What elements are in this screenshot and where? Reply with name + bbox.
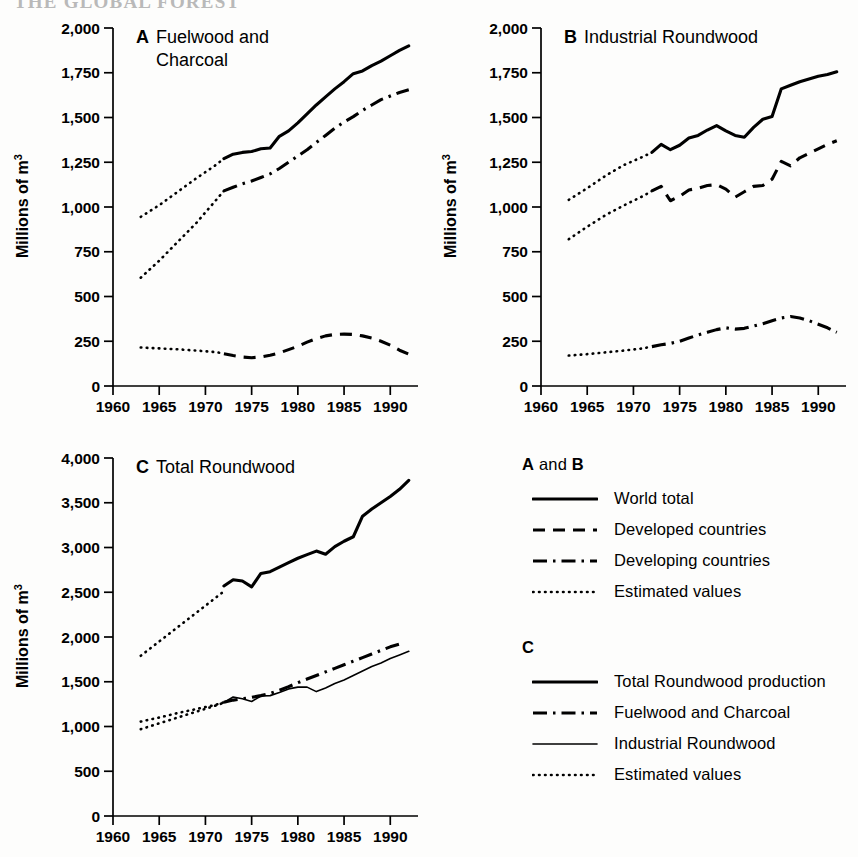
series-line: [224, 334, 409, 358]
y-tick-label: 0: [91, 808, 100, 825]
legend-group-ab-title: A and B: [522, 455, 852, 474]
x-tick-label: 1980: [281, 398, 315, 415]
x-tick-label: 1960: [96, 828, 130, 845]
legend-ab-item[interactable]: World total: [522, 483, 852, 514]
x-tick-label: 1990: [373, 828, 407, 845]
legend: A and B World totalDeveloped countriesDe…: [522, 455, 852, 790]
x-tick-label: 1980: [709, 398, 743, 415]
x-tick-label: 1965: [142, 398, 177, 415]
x-tick-label: 1990: [801, 398, 835, 415]
x-tick-label: 1960: [524, 398, 558, 415]
series-line: [652, 141, 837, 201]
x-tick-label: 1970: [188, 828, 222, 845]
y-tick-label: 2,500: [61, 584, 100, 601]
panel-a-y-axis-title: Millions of m3: [12, 154, 31, 258]
panel-a-x-ticks: 1960196519701975198019851990: [96, 386, 408, 415]
legend-label: Total Roundwood production: [614, 672, 826, 691]
y-tick-label: 3,000: [61, 539, 100, 556]
legend-c-rows: Total Roundwood productionFuelwood and C…: [522, 666, 852, 790]
legend-label: Industrial Roundwood: [614, 734, 776, 753]
panel-c-x-ticks: 1960196519701975198019851990: [96, 816, 408, 845]
x-tick-label: 1985: [327, 398, 362, 415]
legend-ab-b: B: [572, 455, 584, 473]
series-line: [224, 644, 400, 702]
legend-ab-a: A: [522, 455, 534, 473]
legend-ab-item[interactable]: Estimated values: [522, 576, 852, 607]
y-tick-label: 3,500: [61, 494, 100, 511]
legend-swatch: [532, 675, 598, 689]
legend-swatch: [532, 585, 598, 599]
y-tick-label: 250: [502, 333, 528, 350]
panel-c-y-axis-label: Millions of m3: [12, 584, 31, 688]
y-tick-label: 0: [519, 378, 528, 395]
y-tick-label: 2,000: [61, 629, 100, 646]
panel-c-letter: C: [136, 457, 149, 477]
panel-b-letter: B: [564, 27, 577, 47]
x-tick-label: 1970: [616, 398, 650, 415]
series-line: [141, 159, 224, 217]
x-tick-label: 1965: [142, 828, 177, 845]
legend-c-item[interactable]: Industrial Roundwood: [522, 728, 852, 759]
legend-spacer: [522, 607, 852, 638]
y-tick-label: 1,250: [489, 154, 528, 171]
panel-a-svg: Millions of m3 02505007501,0001,2501,500…: [0, 8, 430, 418]
x-tick-label: 1985: [755, 398, 790, 415]
legend-c-item[interactable]: Fuelwood and Charcoal: [522, 697, 852, 728]
panel-b-title-line1: Industrial Roundwood: [584, 27, 758, 47]
legend-swatch-dashed: [532, 523, 598, 537]
y-tick-label: 1,000: [61, 718, 100, 735]
legend-ab-item[interactable]: Developed countries: [522, 514, 852, 545]
x-tick-label: 1975: [234, 398, 269, 415]
x-tick-label: 1985: [327, 828, 362, 845]
legend-swatch: [532, 492, 598, 506]
panel-c: Millions of m3 05001,0001,5002,0002,5003…: [0, 436, 430, 848]
x-tick-label: 1965: [570, 398, 605, 415]
figure-page: THE GLOBAL FOREST Millions of m3 0250500…: [0, 0, 858, 857]
y-tick-label: 250: [74, 333, 100, 350]
y-tick-label: 750: [502, 243, 528, 260]
panel-b-series: [569, 72, 837, 356]
series-line: [569, 191, 652, 239]
panel-c-svg: Millions of m3 05001,0001,5002,0002,5003…: [0, 436, 430, 848]
legend-label: Estimated values: [614, 765, 741, 784]
panel-a-y-ticks: 02505007501,0001,2501,5001,7502,000: [61, 20, 113, 395]
legend-swatch-thin: [532, 737, 598, 751]
series-line: [141, 348, 224, 354]
legend-label: Developing countries: [614, 551, 770, 570]
legend-c-item[interactable]: Estimated values: [522, 759, 852, 790]
y-tick-label: 1,500: [489, 109, 528, 126]
panel-b-y-axis-title: Millions of m3: [440, 154, 459, 258]
panel-a-axes: [113, 28, 418, 386]
x-tick-label: 1975: [234, 828, 269, 845]
panel-c-title-line1: Total Roundwood: [156, 457, 295, 477]
legend-swatch: [532, 554, 598, 568]
legend-label: Developed countries: [614, 520, 766, 539]
legend-swatch-dotted: [532, 585, 598, 599]
panel-a-letter: A: [136, 27, 149, 47]
legend-group-c-title: C: [522, 638, 852, 657]
legend-swatch: [532, 737, 598, 751]
legend-label: World total: [614, 489, 694, 508]
panel-b: Millions of m3 02505007501,0001,2501,500…: [428, 8, 858, 418]
y-tick-label: 1,500: [61, 109, 100, 126]
legend-ab-item[interactable]: Developing countries: [522, 545, 852, 576]
y-tick-label: 1,750: [489, 64, 528, 81]
y-tick-label: 500: [74, 288, 100, 305]
y-tick-label: 4,000: [61, 450, 100, 467]
legend-swatch-solid: [532, 675, 598, 689]
legend-c-item[interactable]: Total Roundwood production: [522, 666, 852, 697]
series-line: [141, 191, 224, 278]
legend-ab-rows: World totalDeveloped countriesDeveloping…: [522, 483, 852, 607]
panel-b-svg: Millions of m3 02505007501,0001,2501,500…: [428, 8, 858, 418]
legend-swatch: [532, 768, 598, 782]
y-tick-label: 2,000: [61, 20, 100, 37]
y-tick-label: 500: [74, 763, 100, 780]
y-tick-label: 0: [91, 378, 100, 395]
legend-label: Estimated values: [614, 582, 741, 601]
series-line: [569, 152, 652, 199]
legend-c-c: C: [522, 638, 534, 656]
panel-b-y-axis-label: Millions of m3: [440, 154, 459, 258]
panel-a-y-axis-label: Millions of m3: [12, 154, 31, 258]
panel-b-x-ticks: 1960196519701975198019851990: [524, 386, 836, 415]
panel-c-series: [141, 480, 409, 729]
